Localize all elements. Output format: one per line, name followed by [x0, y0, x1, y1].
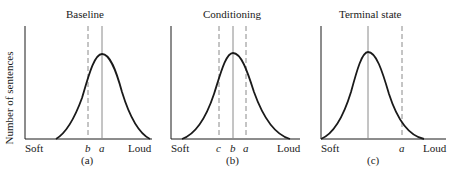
panel-b-distribution-curve [182, 53, 290, 139]
panel-b [171, 26, 300, 139]
figure-canvas [0, 0, 456, 173]
panel-b-marker-b-label: b [230, 143, 236, 154]
panel-b-loud-label: Loud [277, 143, 300, 154]
panel-c-caption: (c) [367, 155, 379, 166]
panel-a-title: Baseline [66, 9, 104, 20]
panel-a-loud-label: Loud [128, 143, 151, 154]
panel-a-caption: (a) [81, 155, 93, 166]
panel-c-soft-label: Soft [321, 143, 339, 154]
panel-a-marker-b-label: b [85, 143, 91, 154]
panel-a-soft-label: Soft [25, 143, 43, 154]
panel-c-loud-label: Loud [423, 143, 446, 154]
panel-b-title: Conditioning [203, 9, 261, 20]
panel-a-marker-a-label: a [99, 143, 105, 154]
panel-b-soft-label: Soft [171, 143, 189, 154]
y-axis-label: Number of sentences [3, 52, 15, 145]
panel-b-marker-a-label: a [243, 143, 249, 154]
panel-a-distribution-curve [56, 54, 150, 139]
panel-b-caption: (b) [226, 155, 239, 166]
panel-b-marker-c-label: c [216, 143, 221, 154]
panel-c-title: Terminal state [339, 9, 401, 20]
panel-c [321, 26, 446, 139]
panel-c-distribution-curve [321, 52, 424, 139]
panel-c-marker-a-label: a [399, 143, 405, 154]
panel-a [25, 26, 152, 139]
